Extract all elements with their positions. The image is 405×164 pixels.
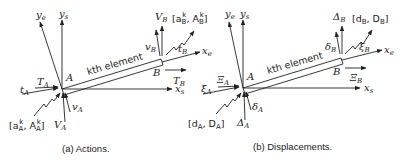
VA-label: VA bbox=[54, 119, 66, 132]
ys-label: ys bbox=[58, 8, 69, 21]
DeltaA-label: ΔA bbox=[236, 117, 249, 130]
vA-label: vA bbox=[72, 101, 83, 114]
DeltaB-label: ΔB bbox=[332, 11, 345, 24]
element-actions-displacements-diagram: ye ys xs A B kth element tA TA vA VA [aA… bbox=[0, 0, 405, 164]
dB-vector-label: [dB, DB] bbox=[352, 13, 388, 26]
xe-label-b: xe bbox=[384, 44, 394, 57]
deltaA-label: δA bbox=[252, 101, 263, 114]
ye-label-b: ye bbox=[224, 8, 235, 21]
panel-actions: ye ys xs A B kth element tA TA vA VA [aA… bbox=[9, 8, 212, 154]
vB-label: vB bbox=[145, 41, 156, 54]
ye-axis-arrow-b bbox=[229, 22, 243, 88]
deltaB-label: δB bbox=[325, 41, 336, 54]
XiB-label: ΞB bbox=[349, 72, 362, 85]
VB-label: VB bbox=[155, 11, 167, 24]
tB-label: tB bbox=[178, 43, 187, 56]
aB-vector-label: [aBk, ABk] bbox=[172, 11, 208, 26]
node-B-label: B bbox=[152, 67, 160, 78]
xs-label-b: xs bbox=[364, 82, 374, 95]
node-B-label-b: B bbox=[332, 66, 340, 77]
vB-arrow bbox=[156, 30, 160, 56]
xiA-label: ξA bbox=[201, 83, 212, 96]
XiA-label: ΞA bbox=[216, 74, 229, 87]
deltaB-arrow bbox=[336, 32, 340, 54]
ye-label: ye bbox=[35, 9, 46, 22]
node-A-label: A bbox=[65, 72, 73, 83]
deltaA-arrow bbox=[246, 92, 251, 110]
xe-label: xe bbox=[202, 45, 212, 58]
ys-label-b: ys bbox=[239, 8, 250, 21]
caption-actions: (a) Actions. bbox=[62, 143, 110, 154]
vA-arrow bbox=[65, 93, 70, 112]
VA-arrow bbox=[63, 93, 65, 122]
panel-displacements: ye ys xs xe A B kth element ξA ΞA δA ΔA … bbox=[188, 8, 394, 152]
aA-vector-arrow bbox=[34, 93, 60, 116]
dA-vector-label: [dA, DA] bbox=[188, 118, 224, 131]
dA-vector-arrow bbox=[216, 93, 241, 114]
DeltaA-arrow bbox=[244, 92, 245, 120]
TA-label: TA bbox=[37, 76, 49, 89]
node-A-label-b: A bbox=[246, 71, 254, 82]
aA-vector-label: [aAk, AAk] bbox=[9, 118, 45, 133]
caption-displacements: (b) Displacements. bbox=[253, 141, 332, 152]
tA-label: tA bbox=[20, 84, 29, 97]
